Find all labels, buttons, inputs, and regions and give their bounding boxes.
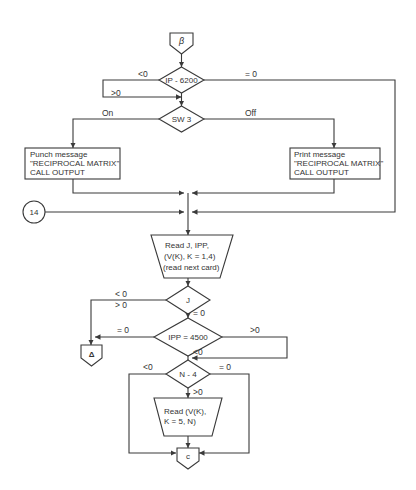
read1-line3: (read next card) <box>163 263 220 272</box>
flow-line-sw3-on <box>73 119 159 148</box>
label-ipp-lt0: <0 <box>193 347 203 357</box>
decision-ipp-label: IPP = 4500 <box>168 333 208 342</box>
label-sw3-off: Off <box>245 108 257 118</box>
label-n4-eq0: = 0 <box>219 362 231 372</box>
input-read-vk: Read (V(K), K = 5, N) <box>154 398 222 436</box>
label-j-lt0: < 0 <box>115 289 127 299</box>
punch-line1: Punch message <box>30 150 88 159</box>
decision-sw3-label: SW 3 <box>172 115 192 124</box>
decision-j-label: J <box>186 296 190 305</box>
label-sw3-on: On <box>102 108 114 118</box>
connector-14-label: 14 <box>30 208 39 217</box>
read1-line2: (V(K), K = 1,4) <box>164 252 216 261</box>
label-j-gt0: > 0 <box>115 300 127 310</box>
connector-delta-label: Δ <box>89 350 95 359</box>
flow-line-punch-out <box>73 179 184 193</box>
label-ip-lt0: <0 <box>138 69 148 79</box>
connector-14: 14 <box>23 201 45 223</box>
label-n4-gt0: >0 <box>193 387 203 397</box>
label-n4-lt0: <0 <box>143 362 153 372</box>
flow-line-sw3-off <box>204 119 334 148</box>
label-ipp-eq0: = 0 <box>117 325 129 335</box>
punch-line3: CALL OUTPUT <box>30 168 85 177</box>
decision-n4-label: N - 4 <box>179 370 197 379</box>
input-read-card: Read J, IPP, (V(K), K = 1,4) (read next … <box>151 235 233 278</box>
read2-line2: K = 5, N) <box>164 417 196 426</box>
flowchart-svg: β IP - 6200 <0 >0 = 0 SW 3 On Off Punch … <box>0 0 416 490</box>
decision-ipp-4500: IPP = 4500 <box>154 318 222 356</box>
print-line1: Print message <box>294 150 346 159</box>
flowchart: β IP - 6200 <0 >0 = 0 SW 3 On Off Punch … <box>0 0 416 490</box>
decision-n-minus-4: N - 4 <box>166 360 210 388</box>
punch-line2: "RECIPROCAL MATRIX" <box>30 159 119 168</box>
entry-connector-label: β <box>178 36 184 46</box>
decision-sw3: SW 3 <box>159 106 204 132</box>
print-line3: CALL OUTPUT <box>294 168 349 177</box>
entry-connector-beta: β <box>170 33 193 54</box>
flow-line-ip-eq0 <box>192 80 395 212</box>
flow-line-j-nonzero <box>91 300 166 345</box>
label-ip-eq0: = 0 <box>245 69 257 79</box>
label-ip-gt0: >0 <box>111 88 121 98</box>
connector-exit-c: c <box>177 448 199 469</box>
connector-exit-label: c <box>186 452 190 461</box>
label-j-eq0: = 0 <box>193 308 205 318</box>
read2-line1: Read (V(K), <box>164 407 206 416</box>
decision-ip-6200: IP - 6200 <box>159 67 204 93</box>
read1-line1: Read J, IPP, <box>165 241 209 250</box>
label-ipp-gt0: >0 <box>250 325 260 335</box>
print-line2: "RECIPROCAL MATRIX" <box>294 159 383 168</box>
decision-ip-label: IP - 6200 <box>165 76 198 85</box>
process-print-message: Print message "RECIPROCAL MATRIX" CALL O… <box>290 148 383 179</box>
connector-delta: Δ <box>81 345 102 366</box>
flow-line-print-out <box>192 179 334 193</box>
process-punch-message: Punch message "RECIPROCAL MATRIX" CALL O… <box>25 148 120 179</box>
